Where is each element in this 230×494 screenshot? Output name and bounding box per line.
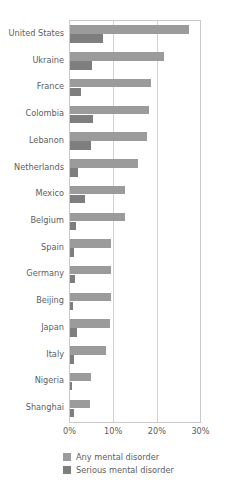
- bar-serious: [70, 115, 93, 124]
- bar-serious: [70, 88, 81, 97]
- bar-serious: [70, 195, 85, 204]
- bar-serious: [70, 141, 91, 150]
- bars-layer: [70, 21, 201, 422]
- legend-swatch-icon-serious: [63, 466, 71, 474]
- category-label: Germany: [0, 269, 64, 278]
- bar-serious: [70, 222, 76, 231]
- category-label: Ukraine: [0, 56, 64, 65]
- bar-any: [70, 293, 111, 302]
- bar-any: [70, 319, 110, 328]
- category-label: Shanghai: [0, 403, 64, 412]
- bar-serious: [70, 275, 75, 284]
- category-label: Italy: [0, 350, 64, 359]
- category-label: Nigeria: [0, 376, 64, 385]
- bar-any: [70, 79, 151, 88]
- category-label: United States: [0, 29, 64, 38]
- bar-any: [70, 400, 90, 409]
- bar-serious: [70, 355, 74, 364]
- x-axis-tick-labels: 0%10%20%30%: [0, 426, 230, 440]
- bar-serious: [70, 168, 78, 177]
- legend-item-any: Any mental disorder: [63, 452, 230, 462]
- bar-serious: [70, 409, 74, 418]
- bar-any: [70, 266, 111, 275]
- bar-any: [70, 213, 125, 222]
- bar-serious: [70, 34, 103, 43]
- bar-serious: [70, 248, 74, 257]
- bar-serious: [70, 382, 72, 391]
- legend-label-serious: Serious mental disorder: [76, 465, 174, 475]
- bar-any: [70, 346, 106, 355]
- category-label: France: [0, 82, 64, 91]
- legend-swatch-icon-any: [63, 453, 71, 461]
- bar-any: [70, 373, 91, 382]
- category-label: Belgium: [0, 216, 64, 225]
- bar-any: [70, 106, 149, 115]
- bar-any: [70, 132, 147, 141]
- category-axis-labels: United StatesUkraineFranceColombiaLebano…: [0, 20, 64, 423]
- bar-any: [70, 25, 189, 34]
- x-tick-label: 20%: [148, 426, 166, 437]
- chart-legend: Any mental disorder Serious mental disor…: [63, 452, 230, 478]
- bar-serious: [70, 61, 92, 70]
- legend-label-any: Any mental disorder: [76, 452, 159, 462]
- category-label: Colombia: [0, 109, 64, 118]
- x-tick-label: 10%: [104, 426, 122, 437]
- category-label: Lebanon: [0, 136, 64, 145]
- category-label: Japan: [0, 323, 64, 332]
- bar-chart: United StatesUkraineFranceColombiaLebano…: [0, 0, 230, 494]
- x-tick-label: 30%: [191, 426, 209, 437]
- bar-serious: [70, 302, 73, 311]
- bar-any: [70, 159, 138, 168]
- bar-serious: [70, 328, 77, 337]
- bar-any: [70, 186, 125, 195]
- category-label: Spain: [0, 243, 64, 252]
- category-label: Mexico: [0, 189, 64, 198]
- bar-any: [70, 52, 164, 61]
- category-label: Beijing: [0, 296, 64, 305]
- legend-item-serious: Serious mental disorder: [63, 465, 230, 475]
- category-label: Netherlands: [0, 163, 64, 172]
- bar-any: [70, 239, 111, 248]
- x-tick-label: 0%: [63, 426, 76, 437]
